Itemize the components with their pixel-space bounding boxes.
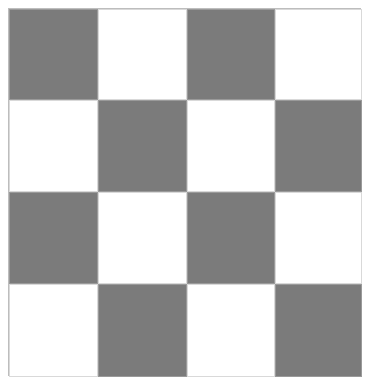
checkerboard	[8, 8, 361, 376]
cell-r3-c2-light	[187, 284, 275, 377]
cell-r2-c0-dark	[9, 192, 98, 284]
cell-r1-c0-light	[9, 100, 98, 192]
cell-r0-c0-dark	[9, 9, 98, 100]
cell-r0-c1-light	[98, 9, 187, 100]
cell-r1-c1-dark	[98, 100, 187, 192]
cell-r3-c0-light	[9, 284, 98, 377]
cell-r2-c2-dark	[187, 192, 275, 284]
cell-r0-c2-dark	[187, 9, 275, 100]
cell-r3-c3-dark	[275, 284, 362, 377]
cell-r2-c3-light	[275, 192, 362, 284]
cell-r1-c3-dark	[275, 100, 362, 192]
cell-r0-c3-light	[275, 9, 362, 100]
cell-r2-c1-light	[98, 192, 187, 284]
cell-r1-c2-light	[187, 100, 275, 192]
cell-r3-c1-dark	[98, 284, 187, 377]
